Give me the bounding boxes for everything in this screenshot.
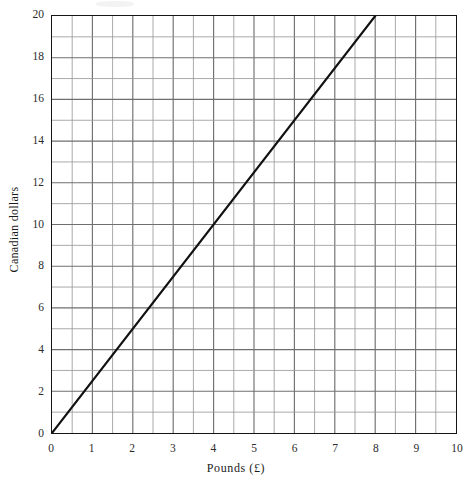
y-tick-label: 8 [38, 261, 44, 273]
y-tick-label: 16 [33, 93, 45, 105]
x-tick-label: 0 [48, 443, 54, 455]
y-tick-label: 20 [33, 9, 45, 21]
x-tick-label: 5 [251, 443, 257, 455]
y-tick-label: 10 [33, 219, 45, 231]
y-axis-title: Canadian dollars [7, 160, 22, 300]
x-tick-label: 10 [451, 443, 463, 455]
plot-area [51, 15, 457, 434]
x-tick-label: 4 [211, 443, 217, 455]
y-tick-label: 4 [38, 344, 44, 356]
x-axis-title: Pounds (£) [0, 461, 472, 476]
y-tick-label: 2 [38, 386, 44, 398]
data-series-layer [52, 16, 456, 433]
y-tick-label: 18 [33, 51, 45, 63]
x-tick-label: 1 [89, 443, 95, 455]
x-tick-label: 7 [332, 443, 338, 455]
x-tick-label: 9 [414, 443, 420, 455]
y-tick-label: 14 [33, 135, 45, 147]
conversion-graph-figure: 02468101214161820 012345678910 Pounds (£… [0, 0, 472, 485]
y-tick-label: 0 [38, 428, 44, 440]
scan-artifact [96, 1, 134, 7]
y-tick-label: 12 [33, 177, 45, 189]
x-tick-label: 3 [170, 443, 176, 455]
y-tick-label: 6 [38, 303, 44, 315]
x-tick-label: 6 [292, 443, 298, 455]
x-tick-label: 2 [129, 443, 135, 455]
x-tick-label: 8 [373, 443, 379, 455]
